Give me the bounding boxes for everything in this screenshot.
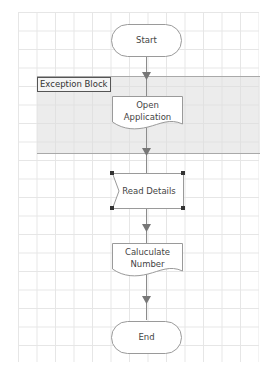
node-read-details[interactable]: Read Details xyxy=(114,185,184,197)
arrowhead-icon xyxy=(142,224,151,232)
node-open-label-line2: Application xyxy=(112,111,183,123)
node-read-label: Read Details xyxy=(122,186,176,196)
resize-handle-top-left[interactable] xyxy=(110,171,114,175)
node-calc-label-line1: Caluculate xyxy=(112,246,183,258)
arrowhead-icon xyxy=(142,296,151,304)
node-end[interactable]: End xyxy=(111,331,182,343)
node-start[interactable]: Start xyxy=(111,34,182,46)
resize-handle-bottom-right[interactable] xyxy=(181,206,185,210)
node-end-label: End xyxy=(138,332,154,342)
node-calc-label-line2: Number xyxy=(112,258,183,270)
resize-handle-bottom-left[interactable] xyxy=(110,206,114,210)
arrowhead-icon xyxy=(142,148,151,156)
node-open-label-line1: Open xyxy=(112,99,183,111)
resize-handle-top-right[interactable] xyxy=(181,171,185,175)
node-calculate-number[interactable]: Caluculate Number xyxy=(112,246,183,270)
arrowhead-icon xyxy=(142,72,151,80)
node-open-application[interactable]: Open Application xyxy=(112,99,183,123)
node-start-label: Start xyxy=(136,35,157,45)
